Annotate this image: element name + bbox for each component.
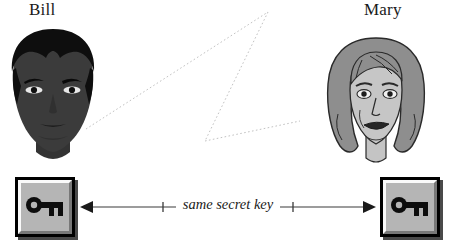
key-icon: [390, 196, 430, 218]
sight-line-vertex-to-mary: [205, 121, 300, 141]
key-button-left-bevel: [18, 180, 72, 234]
key-button-right[interactable]: [380, 177, 440, 237]
key-button-right-bevel: [383, 180, 437, 234]
key-icon: [25, 196, 65, 218]
arrow-right-icon: [363, 201, 376, 213]
mary-portrait: [320, 34, 432, 168]
key-button-left[interactable]: [15, 177, 75, 237]
bill-portrait: [6, 26, 100, 162]
person-label-bill: Bill: [29, 0, 55, 20]
arrow-left-icon: [80, 201, 93, 213]
sight-line-apex-to-vertex: [205, 12, 268, 141]
person-label-mary: Mary: [364, 0, 402, 20]
sight-line-bill-to-apex: [86, 12, 268, 129]
symmetric-key-diagram: Bill Mary: [0, 0, 456, 251]
